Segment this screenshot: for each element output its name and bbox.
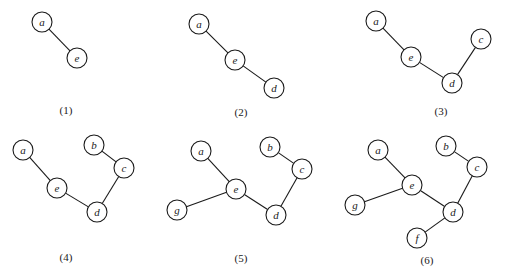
node-d: d [266,205,286,225]
panel-caption: (2) [235,106,248,119]
edge-a-e [30,157,51,180]
node-d: d [87,202,107,222]
node-label: d [94,206,100,218]
edge-b-c [278,153,294,164]
node-label: e [409,51,414,63]
edge-e-d [420,190,444,206]
node-b: b [436,136,456,156]
node-label: a [375,144,381,156]
node-d: d [443,202,463,222]
node-label: d [273,209,279,221]
edge-d-c [281,178,297,207]
panel-caption: (4) [60,251,73,264]
node-label: a [39,16,45,28]
node-label: c [122,162,127,174]
edge-b-c [454,152,468,162]
node-f: f [407,228,427,248]
node-label: d [271,82,277,94]
node-c: c [114,158,134,178]
edge-d-c [102,177,119,204]
node-g: g [345,195,365,215]
node-e: e [225,50,245,70]
panel-1: ae(1) [32,12,87,117]
node-label: e [410,179,415,191]
node-label: e [234,183,239,195]
edge-a-e [206,31,228,53]
node-b: b [84,135,104,155]
node-label: c [475,161,480,173]
edge-e-d [244,194,267,209]
edge-e-d [419,62,443,77]
edge-b-c [102,151,116,162]
node-b: b [260,137,280,157]
node-a: a [191,141,211,161]
node-a: a [189,14,209,34]
node-label: e [75,52,80,64]
panel-caption: (5) [235,252,248,265]
node-label: b [267,141,273,153]
node-a: a [32,12,52,32]
node-a: a [366,11,386,31]
panel-2: aed(2) [189,14,284,119]
panel-3: aedc(3) [366,11,491,118]
panel-caption: (6) [421,254,434,267]
edge-g-e [186,192,226,206]
edge-a-e [49,29,70,51]
edge-d-f [425,218,445,232]
edge-a-e [383,28,404,50]
edge-d-c [458,47,476,74]
node-d: d [442,73,462,93]
node-label: c [300,163,305,175]
edge-g-e [364,188,402,201]
node-label: a [373,15,379,27]
node-label: g [174,204,180,216]
edge-e-d [66,193,89,207]
panel-4: abecd(4) [13,135,134,264]
node-e: e [401,47,421,67]
panel-caption: (1) [60,104,73,117]
node-label: e [55,182,60,194]
node-label: c [479,33,484,45]
node-label: e [233,54,238,66]
node-c: c [292,159,312,179]
node-label: b [91,139,97,151]
panel-6: abecgdf(6) [345,136,487,267]
edge-d-c [458,176,473,203]
edge-a-e [208,158,229,181]
node-a: a [368,140,388,160]
edge-e-d [243,66,266,82]
node-c: c [471,29,491,49]
node-label: d [449,77,455,89]
node-label: b [443,140,449,152]
spanning-tree-diagram: ae(1)aed(2)aedc(3)abecd(4)abecgd(5)abecg… [0,0,506,275]
node-label: d [450,206,456,218]
node-c: c [467,157,487,177]
node-e: e [47,178,67,198]
node-e: e [402,175,422,195]
node-label: g [352,199,358,211]
node-d: d [264,78,284,98]
node-label: a [20,144,26,156]
node-e: e [226,179,246,199]
node-e: e [67,48,87,68]
panel-caption: (3) [435,105,448,118]
edge-a-e [385,157,405,178]
panel-5: abecgd(5) [167,137,312,265]
node-label: a [198,145,204,157]
node-g: g [167,200,187,220]
node-label: a [196,18,202,30]
node-a: a [13,140,33,160]
panels: ae(1)aed(2)aedc(3)abecd(4)abecgd(5)abecg… [13,11,491,267]
